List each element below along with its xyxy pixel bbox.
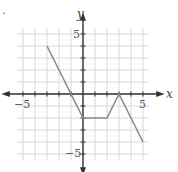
x-tick-label-5: 5 <box>139 98 146 111</box>
x-axis-label: x <box>166 87 173 101</box>
axes <box>1 12 164 172</box>
x-tick-label-neg5: −5 <box>14 98 30 111</box>
x-axis-arrow-left-icon <box>1 91 9 97</box>
y-tick-label-5: 5 <box>73 28 80 41</box>
problem-marker: . <box>2 4 6 17</box>
function-graph: x y −5 5 5 −5 . <box>0 0 178 172</box>
y-tick-label-neg5: −5 <box>65 147 81 160</box>
x-axis-arrow-right-icon <box>156 91 164 97</box>
y-axis-label: y <box>76 7 84 21</box>
y-axis-arrow-down-icon <box>80 167 86 172</box>
